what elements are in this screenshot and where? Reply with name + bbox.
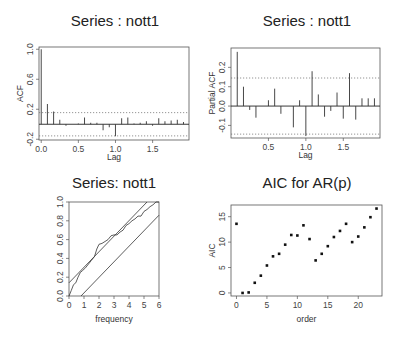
- plot-frame: [39, 47, 189, 140]
- aic-point: [308, 238, 311, 241]
- y-tick-label: 0.2: [25, 103, 35, 115]
- aic-point: [375, 207, 378, 210]
- x-tick-label: 0.0: [35, 144, 47, 154]
- acf-ylabel: ACF: [15, 85, 25, 102]
- plot-frame: [69, 202, 159, 296]
- pacf-plot-area: 0.51.01.5-0.10.00.10.2: [217, 48, 380, 152]
- aic-point: [351, 241, 354, 244]
- y-tick-label: 1.0: [55, 196, 65, 208]
- y-tick-label: 5: [217, 265, 227, 270]
- y-tick-label: 0.6: [55, 233, 65, 245]
- pacf-xlabel: Lag: [298, 150, 312, 160]
- y-tick-label: 0.6: [25, 73, 35, 85]
- aic-point: [339, 230, 342, 233]
- x-tick-label: 0: [67, 300, 72, 310]
- y-tick-label: 0.2: [55, 271, 65, 283]
- x-tick-label: 1.5: [337, 142, 349, 152]
- aic-xlabel: order: [297, 314, 317, 324]
- x-tick-label: 0.5: [263, 142, 275, 152]
- aic-point: [272, 255, 275, 258]
- cpgram-title: Series: nott1: [72, 174, 156, 191]
- x-tick-label: 1.5: [147, 144, 159, 154]
- aic-point: [253, 281, 256, 284]
- x-tick-label: 20: [354, 300, 364, 310]
- aic-point: [302, 224, 305, 227]
- pacf-title: Series : nott1: [263, 12, 351, 29]
- aic-point: [247, 291, 250, 294]
- aic-point: [241, 292, 244, 295]
- y-tick-label: 1.0: [25, 43, 35, 55]
- x-tick-label: 15: [323, 300, 333, 310]
- x-tick-label: 1: [82, 300, 87, 310]
- acf-panel: Series : nott1 0.00.51.01.5-0.20.20.61.0…: [15, 12, 189, 162]
- acf-title: Series : nott1: [71, 12, 159, 29]
- acf-xlabel: Lag: [107, 152, 121, 162]
- y-tick-label: 0.8: [55, 215, 65, 227]
- y-tick-label: 0.1: [217, 81, 227, 93]
- aic-point: [278, 253, 281, 256]
- y-tick-label: 0.4: [55, 252, 65, 264]
- aic-point: [327, 245, 330, 248]
- y-tick-label: -0.2: [25, 132, 35, 147]
- aic-point: [235, 223, 238, 226]
- acf-plot-area: 0.00.51.01.5-0.20.20.61.0: [25, 43, 189, 154]
- pacf-ylabel: Partial ACF: [207, 72, 217, 115]
- aic-point: [320, 253, 323, 256]
- aic-point: [284, 243, 287, 246]
- aic-point: [333, 236, 336, 239]
- y-tick-label: 0.2: [217, 61, 227, 73]
- cpgram-panel: Series: nott1 01234560.00.20.40.60.81.0 …: [55, 174, 162, 324]
- aic-point: [357, 235, 360, 238]
- y-tick-label: 0: [217, 290, 227, 295]
- lower-band-line: [81, 215, 159, 296]
- x-tick-label: 0.5: [72, 144, 84, 154]
- aic-point: [290, 234, 293, 237]
- aic-point: [363, 226, 366, 229]
- x-tick-label: 5: [265, 300, 270, 310]
- figure-canvas: Series : nott1 0.00.51.01.5-0.20.20.61.0…: [0, 0, 399, 338]
- upper-band-line: [69, 202, 147, 283]
- y-tick-label: -0.1: [217, 118, 227, 133]
- aic-point: [260, 274, 263, 277]
- aic-ylabel: AIC: [207, 243, 217, 257]
- cpgram-xlabel: frequency: [95, 314, 133, 324]
- aic-panel: AIC for AR(p) 05101520051015 order AIC: [207, 174, 382, 324]
- y-tick-label: 0.0: [55, 290, 65, 302]
- x-tick-label: 2: [97, 300, 102, 310]
- aic-point: [345, 223, 348, 226]
- cpgram-plot-area: 01234560.00.20.40.60.81.0: [55, 196, 162, 310]
- aic-plot-area: 05101520051015: [217, 205, 382, 310]
- aic-point: [266, 264, 269, 267]
- y-tick-label: 0.0: [217, 100, 227, 112]
- x-tick-label: 4: [127, 300, 132, 310]
- cumulative-periodogram-line: [69, 202, 159, 296]
- x-tick-label: 10: [293, 300, 303, 310]
- aic-point: [369, 216, 372, 219]
- x-tick-label: 0: [234, 300, 239, 310]
- aic-point: [296, 234, 299, 237]
- x-tick-label: 6: [157, 300, 162, 310]
- aic-point: [314, 259, 317, 262]
- y-tick-label: 10: [217, 237, 227, 247]
- pacf-panel: Series : nott1 0.51.01.5-0.10.00.10.2 La…: [207, 12, 380, 160]
- x-tick-label: 5: [142, 300, 147, 310]
- aic-title: AIC for AR(p): [262, 174, 351, 191]
- x-tick-label: 3: [112, 300, 117, 310]
- y-tick-label: 15: [217, 212, 227, 222]
